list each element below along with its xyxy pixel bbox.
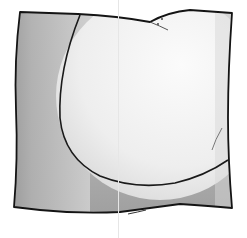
pillow-drawing [0, 0, 247, 238]
pillow-illustration [0, 0, 247, 238]
faint-divider-line [118, 0, 119, 238]
pillow-body [0, 0, 247, 238]
